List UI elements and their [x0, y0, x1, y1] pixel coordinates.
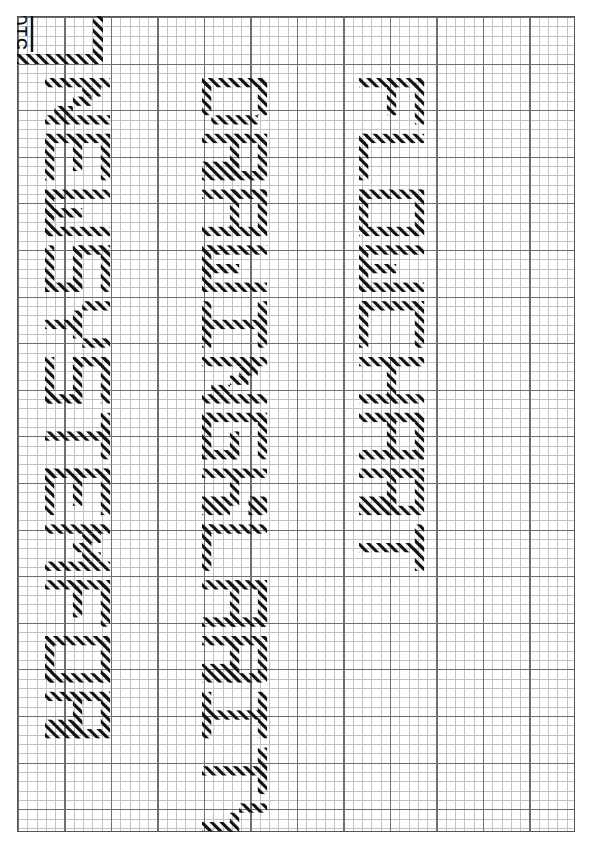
- letter-stroke: [54, 106, 73, 115]
- letter-stroke: [230, 190, 239, 237]
- letter-stroke: [45, 134, 54, 181]
- letter-stroke: [211, 385, 230, 394]
- letter-stroke: [82, 534, 101, 543]
- letter-stroke: [202, 357, 267, 366]
- letter-stroke: [202, 245, 211, 292]
- letter-stroke: [45, 673, 110, 682]
- letter-stroke: [82, 552, 101, 561]
- block-letter-artwork: [17, 16, 575, 832]
- letter-stroke: [387, 78, 396, 115]
- letter-stroke: [359, 134, 424, 143]
- letter-stroke: [73, 97, 92, 106]
- letter-stroke: [45, 357, 54, 404]
- letter-stroke: [202, 692, 211, 739]
- artwork-canvas: [17, 16, 575, 832]
- sheet-number-value: 510: [17, 16, 32, 50]
- letter-stroke: [230, 478, 239, 506]
- corner-hatch-right: [93, 16, 103, 60]
- letter-stroke: [359, 245, 368, 292]
- letter-stroke: [202, 320, 267, 329]
- letter-stroke: [45, 636, 54, 683]
- corner-hatch-bottom: [17, 54, 103, 64]
- letter-stroke: [359, 301, 424, 310]
- letter-stroke: [239, 366, 258, 375]
- letter-stroke: [202, 283, 267, 292]
- letter-stroke: [73, 134, 82, 171]
- letter-stroke: [73, 543, 92, 552]
- letter-stroke: [45, 469, 54, 515]
- letter-stroke: [359, 283, 424, 292]
- letter-stroke: [202, 162, 239, 181]
- letter-stroke: [45, 78, 110, 87]
- letter-stroke: [359, 190, 368, 237]
- letter-stroke: [202, 394, 267, 403]
- letter-stroke: [45, 190, 54, 237]
- letter-stroke: [202, 78, 211, 115]
- letter-stroke: [202, 664, 239, 683]
- sheet-number-stamp: 510: [17, 16, 111, 64]
- letter-stroke: [73, 580, 82, 617]
- letter-stroke: [73, 311, 82, 339]
- letter-stroke: [202, 245, 267, 254]
- letter-stroke: [202, 301, 211, 348]
- letter-stroke: [239, 803, 267, 812]
- letter-stroke: [359, 134, 368, 181]
- letter-stroke: [45, 431, 110, 440]
- artwork-transcription: FLOWCHART DRAWING KLARITY NEW SYSTEM FOR…: [0, 0, 1, 1]
- letter-stroke: [45, 320, 73, 329]
- letter-stroke: [45, 524, 110, 533]
- letter-stroke: [230, 813, 239, 832]
- letter-stroke: [202, 413, 267, 422]
- letter-stroke: [202, 524, 267, 533]
- letter-stroke: [230, 580, 239, 627]
- transcript-column-1: FLOWCHART: [0, 0, 1, 1]
- letter-stroke: [202, 524, 211, 571]
- letter-stroke: [387, 357, 396, 404]
- letter-stroke: [202, 822, 230, 831]
- letter-stroke: [230, 431, 239, 459]
- letter-stroke: [359, 543, 424, 552]
- letter-stroke: [230, 376, 249, 385]
- letter-stroke: [45, 227, 110, 236]
- letter-stroke: [359, 245, 424, 254]
- letter-stroke: [359, 301, 368, 348]
- letter-stroke: [82, 338, 110, 347]
- letter-stroke: [202, 766, 267, 775]
- letter-stroke: [45, 190, 110, 199]
- letter-stroke: [45, 720, 82, 739]
- letter-stroke: [387, 413, 396, 460]
- letter-stroke: [211, 115, 257, 124]
- sheet-number-svg: 510: [17, 16, 111, 64]
- graph-paper-sheet: 510 FLOWCHART DRAWING KLARITY NEW SYSTEM…: [0, 0, 591, 850]
- letter-stroke: [82, 87, 101, 96]
- letter-stroke: [82, 301, 110, 310]
- letter-stroke: [45, 245, 54, 292]
- letter-stroke: [45, 636, 110, 645]
- letter-stroke: [45, 115, 110, 124]
- letter-stroke: [359, 190, 424, 199]
- letter-stroke: [202, 497, 230, 516]
- letter-stroke: [202, 78, 267, 87]
- letter-stroke: [45, 562, 110, 571]
- letter-stroke: [249, 497, 268, 516]
- letter-stroke: [202, 710, 267, 719]
- sheet-number-text: 510: [17, 16, 32, 52]
- letter-stroke: [202, 469, 267, 478]
- letter-stroke: [359, 227, 424, 236]
- letter-stroke: [73, 469, 82, 506]
- letter-stroke: [359, 497, 396, 516]
